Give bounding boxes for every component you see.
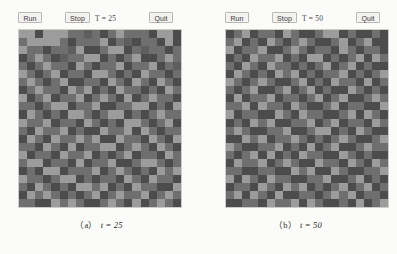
automaton-cell	[149, 62, 157, 70]
automaton-cell	[372, 94, 380, 102]
stop-button[interactable]: Stop	[65, 12, 90, 23]
automaton-cell	[348, 191, 356, 199]
automaton-cell	[35, 70, 43, 78]
automaton-cell	[43, 94, 51, 102]
run-button[interactable]: Run	[18, 12, 42, 23]
automaton-cell	[291, 78, 299, 86]
automaton-cell	[157, 30, 165, 38]
automaton-cell	[339, 191, 347, 199]
automaton-cell	[339, 127, 347, 135]
quit-button[interactable]: Quit	[149, 12, 173, 23]
automaton-cell	[35, 119, 43, 127]
automaton-cell	[35, 191, 43, 199]
automaton-cell	[132, 127, 140, 135]
automaton-cell	[173, 191, 181, 199]
cellular-automaton-canvas-a[interactable]	[18, 29, 182, 208]
figure-panel-b: Run Stop T = 50 Quit （b）t = 50	[199, 0, 397, 254]
automaton-cell	[356, 175, 364, 183]
automaton-cell	[51, 54, 59, 62]
automaton-cell	[275, 143, 283, 151]
cellular-automaton-canvas-b[interactable]	[225, 29, 389, 208]
automaton-cell	[307, 54, 315, 62]
automaton-cell	[348, 46, 356, 54]
automaton-cell	[250, 175, 258, 183]
automaton-cell	[315, 38, 323, 46]
automaton-cell	[60, 143, 68, 151]
automaton-cell	[348, 143, 356, 151]
automaton-cell	[43, 135, 51, 143]
automaton-cell	[108, 199, 116, 207]
automaton-cell	[35, 46, 43, 54]
automaton-cell	[356, 151, 364, 159]
automaton-cell	[35, 94, 43, 102]
automaton-cell	[348, 175, 356, 183]
automaton-cell	[234, 78, 242, 86]
automaton-cell	[315, 30, 323, 38]
automaton-cell	[165, 175, 173, 183]
automaton-cell	[149, 183, 157, 191]
automaton-cell	[323, 54, 331, 62]
automaton-cell	[339, 159, 347, 167]
run-button[interactable]: Run	[225, 12, 249, 23]
automaton-cell	[356, 78, 364, 86]
automaton-cell	[275, 46, 283, 54]
automaton-cell	[275, 70, 283, 78]
automaton-cell	[299, 86, 307, 94]
automaton-cell	[356, 159, 364, 167]
automaton-cell	[299, 94, 307, 102]
automaton-cell	[173, 38, 181, 46]
automaton-cell	[84, 135, 92, 143]
automaton-cell	[307, 30, 315, 38]
automaton-cell	[141, 135, 149, 143]
automaton-cell	[331, 86, 339, 94]
automaton-cell	[60, 38, 68, 46]
automaton-cell	[116, 54, 124, 62]
automaton-cell	[380, 30, 388, 38]
automaton-cell	[380, 191, 388, 199]
automaton-cell	[165, 127, 173, 135]
time-step-label: T = 50	[302, 14, 323, 23]
stop-button[interactable]: Stop	[272, 12, 297, 23]
automaton-cell	[283, 94, 291, 102]
automaton-cell	[234, 86, 242, 94]
automaton-cell	[250, 199, 258, 207]
automaton-cell	[100, 30, 108, 38]
automaton-cell	[339, 78, 347, 86]
automaton-cell	[315, 167, 323, 175]
automaton-cell	[275, 119, 283, 127]
automaton-cell	[307, 175, 315, 183]
automaton-cell	[19, 102, 27, 110]
automaton-cell	[356, 119, 364, 127]
automaton-cell	[275, 110, 283, 118]
automaton-cell	[226, 30, 234, 38]
automaton-cell	[27, 46, 35, 54]
automaton-cell	[258, 135, 266, 143]
automaton-cell	[372, 62, 380, 70]
automaton-cell	[68, 38, 76, 46]
automaton-cell	[19, 167, 27, 175]
automaton-cell	[299, 30, 307, 38]
automaton-cell	[141, 54, 149, 62]
automaton-cell	[291, 70, 299, 78]
automaton-cell	[173, 86, 181, 94]
automaton-cell	[275, 151, 283, 159]
automaton-cell	[283, 119, 291, 127]
automaton-cell	[84, 143, 92, 151]
automaton-cell	[27, 119, 35, 127]
automaton-cell	[283, 199, 291, 207]
automaton-cell	[108, 159, 116, 167]
automaton-cell	[267, 199, 275, 207]
automaton-cell	[68, 167, 76, 175]
automaton-cell	[141, 38, 149, 46]
automaton-cell	[108, 38, 116, 46]
automaton-cell	[149, 127, 157, 135]
automaton-cell	[27, 127, 35, 135]
automaton-cell	[299, 78, 307, 86]
automaton-cell	[356, 70, 364, 78]
automaton-cell	[43, 143, 51, 151]
automaton-cell	[250, 86, 258, 94]
simulation-window-a: Run Stop T = 25 Quit	[18, 10, 182, 208]
automaton-cell	[92, 191, 100, 199]
automaton-cell	[250, 159, 258, 167]
quit-button[interactable]: Quit	[356, 12, 380, 23]
